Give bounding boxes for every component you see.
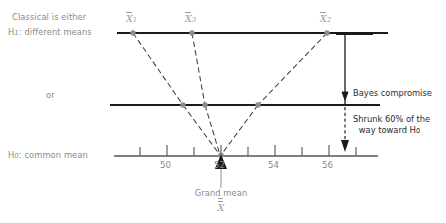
connector-bayes1-grand [183, 105, 220, 155]
point-bayes2 [255, 102, 260, 107]
classical-is-either-label: Classical is either [12, 12, 86, 22]
xbar1-label: X1 [126, 13, 137, 24]
connector-bayes2-grand [221, 105, 258, 155]
bayes-compromise-annotation: Bayes compromise [353, 88, 432, 99]
axis-tick-label-50: 50 [160, 160, 171, 170]
h0-row-text: : common mean [19, 150, 88, 160]
xbar3-symbol: X [185, 13, 192, 24]
shrunk-arrow-group [341, 107, 349, 152]
shrinkage-diagram-figure: Classical is either H1: different means … [0, 0, 446, 223]
h1-row-label: H1: different means [8, 27, 92, 37]
axis-tick-label-54: 54 [268, 160, 279, 170]
point-xbar1 [130, 30, 135, 35]
grand-mean-symbol-label: X [186, 202, 256, 213]
xbar1-symbol: X [126, 13, 133, 24]
grand-mean-symbol: X [218, 202, 225, 213]
connector-bayes3-grand [205, 105, 220, 155]
xbar3-label: X3 [185, 13, 196, 24]
xbar2-label: X2 [320, 13, 331, 24]
shrunk-annotation-line2: way toward H0 [353, 125, 430, 136]
xbar2-subscript: 2 [327, 16, 331, 24]
connector-x2-bayes [258, 33, 327, 105]
point-xbar2 [324, 30, 329, 35]
xbar1-subscript: 1 [133, 16, 137, 24]
shrunk-annotation-line1: Shrunk 60% of the [353, 114, 430, 125]
xbar2-symbol: X [320, 13, 327, 24]
shrunk-annotation: Shrunk 60% of the way toward H0 [353, 114, 430, 136]
axis-tick-label-52: 52 [214, 160, 225, 170]
h0-row-label: H0: common mean [8, 150, 88, 160]
shrunk-h0-subscript: 0 [416, 127, 420, 135]
axis-tick-label-56: 56 [322, 160, 333, 170]
point-bayes3 [202, 102, 207, 107]
h1-row-text: : different means [19, 27, 92, 37]
xbar3-subscript: 3 [192, 16, 196, 24]
shrinkage-connectors [133, 33, 327, 105]
connector-x1-bayes [133, 33, 183, 105]
point-bayes1 [180, 102, 185, 107]
grand-mean-caption: Grand mean [186, 188, 256, 198]
bracket-arrow-down [342, 92, 348, 100]
point-xbar3 [189, 30, 194, 35]
or-label: or [46, 90, 55, 100]
axis-ticks [140, 145, 356, 156]
connector-x3-bayes [192, 33, 205, 105]
shrunk-arrow-head [341, 140, 349, 152]
shrunk-annotation-line2-text: way toward [359, 125, 410, 135]
